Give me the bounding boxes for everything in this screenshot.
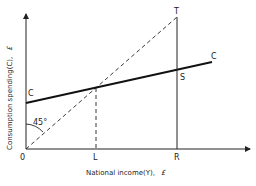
angle-label: 45° [33,118,47,127]
consumption-function-diagram: 45° C C T S 0 L R National income(Y), £ … [0,0,256,186]
y-axis-label: Consumption spending(C), £ [6,46,14,151]
forty-five-degree-line [26,17,177,149]
s-label: S [180,73,185,82]
c-label-start: C [28,89,34,98]
l-label: L [93,153,98,162]
consumption-line [26,62,212,103]
t-label: T [173,7,179,16]
c-label-end: C [211,52,217,61]
origin-label: 0 [20,153,25,162]
x-axis-label: National income(Y), £ [86,169,166,177]
r-label: R [174,153,180,162]
